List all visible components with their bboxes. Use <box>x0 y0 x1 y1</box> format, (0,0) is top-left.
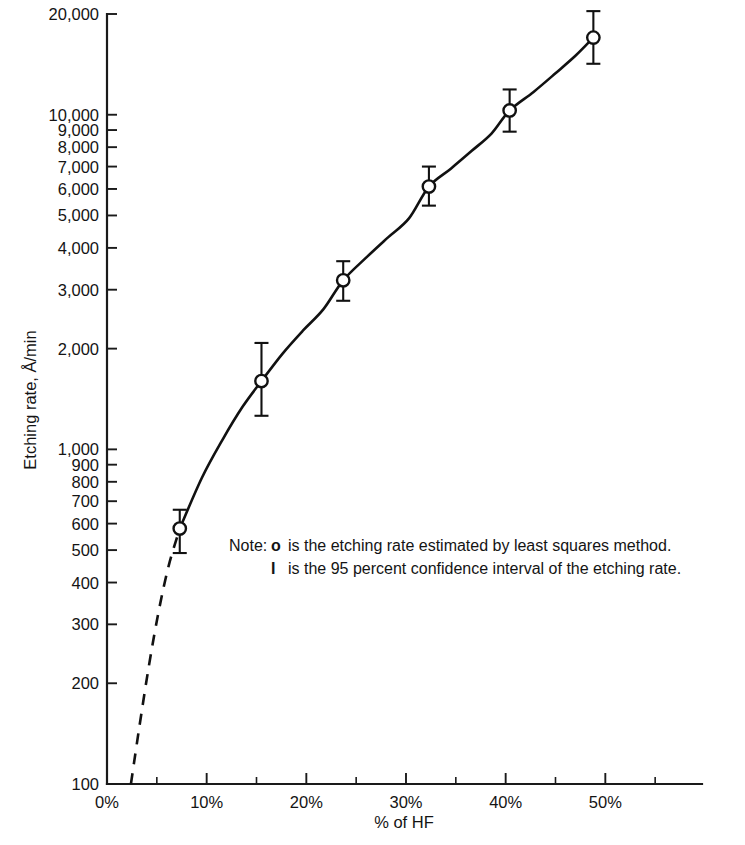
fit-curve-extrapolated <box>131 529 180 784</box>
y-tick-label: 5,000 <box>58 206 99 224</box>
axes <box>107 14 702 784</box>
y-tick-label: 20,000 <box>49 5 99 23</box>
note-line-1-text: is the etching rate estimated by least s… <box>288 537 671 554</box>
y-tick-label: 200 <box>71 674 99 692</box>
data-point-layer <box>174 31 600 534</box>
x-axis-title: % of HF <box>374 813 434 831</box>
x-tick-label: 50% <box>589 793 622 811</box>
y-tick-label: 6,000 <box>58 180 99 198</box>
chart-canvas: 1002003004005006007008009001,0002,0003,0… <box>0 0 745 845</box>
y-tick-label: 8,000 <box>58 138 99 156</box>
x-tick-label: 40% <box>489 793 522 811</box>
data-point-marker <box>174 522 186 534</box>
data-point-marker <box>587 31 599 43</box>
fit-curve <box>180 38 594 529</box>
x-tick-label: 30% <box>389 793 422 811</box>
y-tick-label: 7,000 <box>58 158 99 176</box>
y-tick-label: 500 <box>71 541 99 559</box>
fit-curve-layer <box>131 38 593 784</box>
etching-rate-figure: 1002003004005006007008009001,0002,0003,0… <box>0 0 745 845</box>
y-tick-label: 100 <box>71 775 99 793</box>
y-tick-label: 800 <box>71 473 99 491</box>
y-tick-label: 900 <box>71 456 99 474</box>
y-tick-label: 10,000 <box>49 106 99 124</box>
note-line-1-symbol: o <box>271 537 281 554</box>
data-point-marker <box>423 180 435 192</box>
data-point-marker <box>255 375 267 387</box>
note-line-1-prefix: Note: <box>229 537 267 554</box>
y-tick-label: 300 <box>71 615 99 633</box>
note-line-2-text: is the 95 percent confidence interval of… <box>288 560 681 577</box>
data-point-marker <box>503 104 515 116</box>
note-block: Note: o is the etching rate estimated by… <box>229 537 681 577</box>
y-tick-label: 3,000 <box>58 281 99 299</box>
y-tick-label: 1,000 <box>58 440 99 458</box>
y-tick-label: 2,000 <box>58 340 99 358</box>
y-tick-label: 400 <box>71 574 99 592</box>
x-tick-label: 10% <box>190 793 223 811</box>
y-axis-title: Etching rate, Å/min <box>21 330 39 469</box>
x-tick-label: 20% <box>290 793 323 811</box>
data-point-marker <box>337 274 349 286</box>
confidence-interval-layer <box>173 11 601 553</box>
y-tick-label: 4,000 <box>58 239 99 257</box>
y-tick-label: 700 <box>71 492 99 510</box>
y-tick-label: 600 <box>71 515 99 533</box>
note-line-2-symbol: I <box>271 560 275 577</box>
x-axis-ticks: 0%10%20%30%40%50% <box>95 773 622 811</box>
x-tick-label: 0% <box>95 793 119 811</box>
